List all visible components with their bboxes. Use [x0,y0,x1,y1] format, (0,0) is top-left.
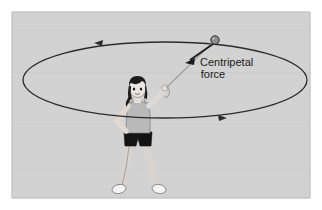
right-eye [140,88,142,91]
ball-highlight [212,37,215,40]
figure-canvas: Centripetal force [0,0,322,210]
centripetal-force-label-line1: Centripetal [200,56,253,68]
left-eye [133,88,135,91]
centripetal-force-label-line2: force [201,68,225,80]
centripetal-force-figure: Centripetal force [0,0,322,210]
whirling-ball [211,36,219,44]
